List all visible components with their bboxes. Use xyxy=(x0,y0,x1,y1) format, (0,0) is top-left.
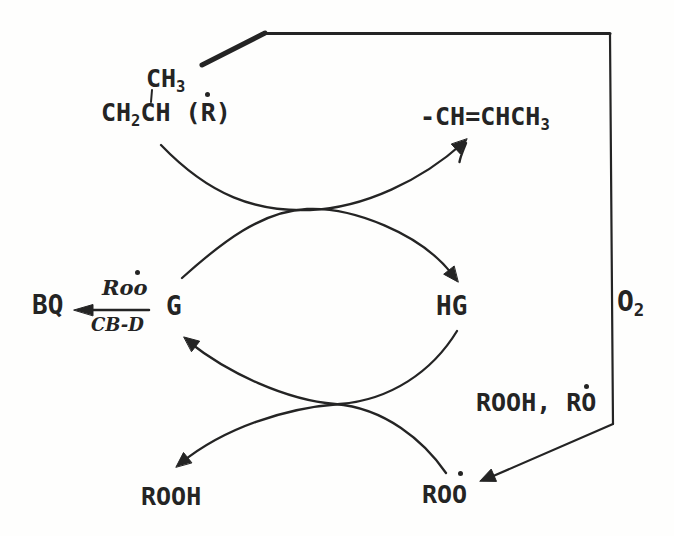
label-oxygen: O2 xyxy=(617,288,644,316)
subscript: 3 xyxy=(176,80,185,96)
arc-g-to-hg xyxy=(182,209,452,278)
label-rooh: ROOH xyxy=(141,484,201,509)
label-g: G xyxy=(166,293,182,319)
radical-to-top-connector-line xyxy=(202,33,265,65)
o2-to-roo-arrow xyxy=(480,424,613,481)
label-roo: ROO xyxy=(422,482,467,507)
arrow-g-to-hg xyxy=(182,209,458,282)
label-bq: BQ xyxy=(32,292,63,318)
oxygen-line xyxy=(610,34,613,424)
label-roo-handwritten: Roo xyxy=(102,277,147,298)
radical-dot-roo xyxy=(458,471,463,476)
subscript: 2 xyxy=(131,114,140,129)
radical-dot-ro xyxy=(584,384,589,389)
subscript: 3 xyxy=(540,118,549,133)
arrow-roo-to-g xyxy=(184,337,446,473)
arc-r-to-alkene xyxy=(161,143,463,210)
subscript: 2 xyxy=(634,302,644,319)
label-hg: HG xyxy=(436,293,467,319)
scheme-lines xyxy=(0,0,674,536)
arrowhead xyxy=(480,469,496,481)
label-methyl: CH3 xyxy=(146,66,185,91)
formula-text: CH xyxy=(146,64,176,93)
label-rooh-ro: ROOH, RO xyxy=(476,390,596,415)
radical-dot-r xyxy=(205,92,210,97)
arrowhead xyxy=(176,453,192,468)
arrow-hg-to-rooh xyxy=(176,331,457,467)
formula-text: CH (R) xyxy=(140,98,230,127)
formula-text: O xyxy=(617,285,634,318)
arc-hg-to-rooh xyxy=(181,331,457,463)
formula-text: CH xyxy=(101,98,131,127)
arrow-r-to-alkene xyxy=(161,139,467,210)
label-cbd-mechanism: CB-D xyxy=(91,316,144,334)
arrowhead xyxy=(444,266,458,282)
reaction-scheme: CH3 CH2CH (R) -CH=CHCH3 BQ G HG O2 ROOH,… xyxy=(0,0,674,536)
o2-to-roo-shaft xyxy=(484,424,613,480)
formula-text: -CH=CHCH xyxy=(420,102,540,131)
label-backbone-radical: CH2CH (R) xyxy=(101,100,231,125)
label-alkene-product: -CH=CHCH3 xyxy=(420,104,550,129)
radical-dot-roo-handwritten xyxy=(135,270,140,275)
